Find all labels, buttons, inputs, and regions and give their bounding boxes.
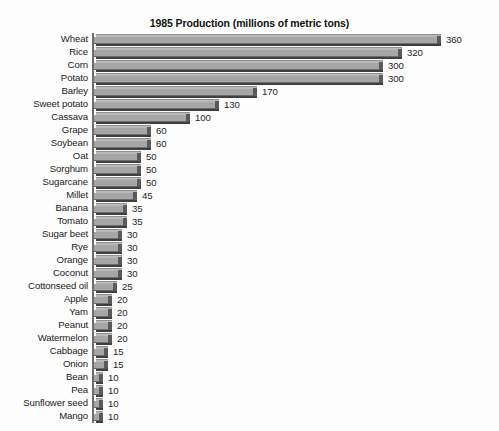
bar-row: Soybean60 [0,137,499,150]
bar-row: Sweet potato130 [0,98,499,111]
value-label: 20 [117,307,127,319]
bar-front-face [93,89,254,96]
bar [93,112,190,123]
production-bar-chart: 1985 Production (millions of metric tons… [0,0,499,431]
bar-front-face [93,63,380,70]
value-label: 25 [122,281,132,293]
bar-front-face [93,206,124,213]
bar [93,216,127,227]
bar-cap-face [118,257,122,265]
category-label: Sunflower seed [0,397,88,409]
bar [93,34,441,45]
bar-row: Cabbage15 [0,345,499,358]
bar-row: Cassava100 [0,111,499,124]
bar-row: Corn300 [0,59,499,72]
bar-cap-face [118,231,122,239]
bar-front-face [93,336,109,343]
bar-row: Coconut30 [0,267,499,280]
bar-cap-face [108,322,112,330]
bar [93,281,117,292]
bar [93,346,108,357]
bar-cap-face [99,387,103,395]
category-label: Sweet potato [0,98,88,110]
bar [93,320,112,331]
value-label: 15 [113,346,123,358]
category-label: Bean [0,371,88,383]
bar-row: Peanut20 [0,319,499,332]
bar-cap-face [147,140,151,148]
bar-row: Rye30 [0,241,499,254]
value-label: 20 [117,333,127,345]
bar-row: Rice320 [0,46,499,59]
bar [93,268,122,279]
value-label: 30 [127,255,137,267]
category-label: Mango [0,410,88,422]
bar [93,307,112,318]
bar-cap-face [99,374,103,382]
bar [93,333,112,344]
bar [93,294,112,305]
bar [93,138,151,149]
bar [93,398,103,409]
value-label: 15 [113,359,123,371]
bar-front-face [93,271,119,278]
category-label: Wheat [0,33,88,45]
value-label: 35 [132,216,142,228]
category-label: Rye [0,241,88,253]
bar-front-face [93,128,148,135]
bar-cap-face [137,179,141,187]
value-label: 10 [108,372,118,384]
bar-row: Onion15 [0,358,499,371]
category-label: Pea [0,384,88,396]
bar-front-face [93,167,138,174]
bar [93,385,103,396]
bar-cap-face [137,166,141,174]
value-label: 60 [156,138,166,150]
bar-front-face [93,76,380,83]
category-label: Oat [0,150,88,162]
category-label: Millet [0,189,88,201]
value-label: 30 [127,242,137,254]
bar-row: Barley170 [0,85,499,98]
bar [93,177,141,188]
bar-cap-face [253,88,257,96]
bar-front-face [93,154,138,161]
bar-row: Grape60 [0,124,499,137]
category-label: Peanut [0,319,88,331]
category-label: Watermelon [0,332,88,344]
bar-row: Sugarcane50 [0,176,499,189]
category-label: Sugarcane [0,176,88,188]
category-label: Cassava [0,111,88,123]
category-label: Tomato [0,215,88,227]
bar-cap-face [108,335,112,343]
category-label: Barley [0,85,88,97]
bar-front-face [93,115,187,122]
bar-row: Sugar beet30 [0,228,499,241]
bar [93,359,108,370]
bar-cap-face [379,75,383,83]
bar [93,86,257,97]
bar-front-face [93,297,109,304]
bar-cap-face [99,413,103,421]
category-label: Sorghum [0,163,88,175]
bar [93,411,103,422]
value-label: 30 [127,229,137,241]
bar-front-face [93,102,216,109]
bar-front-face [93,258,119,265]
chart-plot-area: Wheat360Rice320Corn300Potato300Barley170… [0,33,499,425]
bar-cap-face [437,36,441,44]
value-label: 300 [388,60,404,72]
category-label: Yam [0,306,88,318]
bar-row: Watermelon20 [0,332,499,345]
value-label: 30 [127,268,137,280]
value-label: 300 [388,73,404,85]
category-label: Orange [0,254,88,266]
value-label: 320 [407,47,423,59]
bar-row: Banana35 [0,202,499,215]
value-label: 100 [195,112,211,124]
bar [93,255,122,266]
bar-row: Sorghum50 [0,163,499,176]
bar-row: Cottonseed oil25 [0,280,499,293]
value-label: 130 [224,99,240,111]
bar-cap-face [99,400,103,408]
